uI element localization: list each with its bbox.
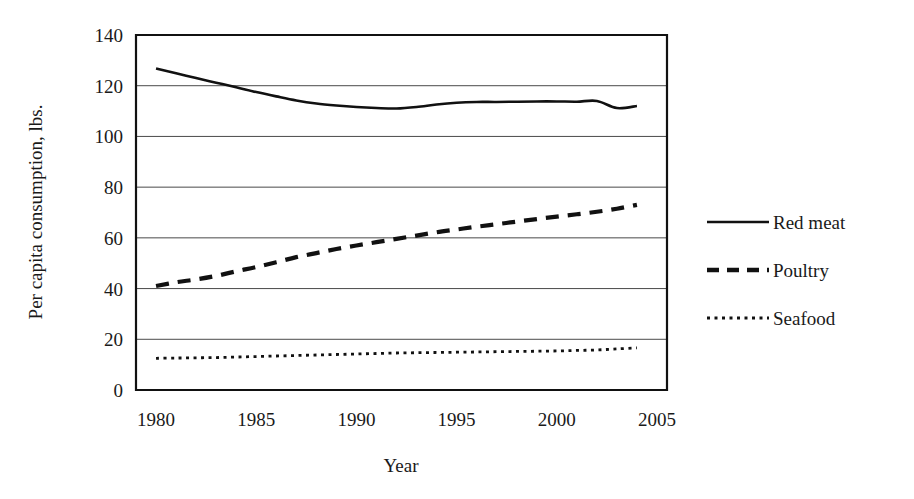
line-chart: 020406080100120140 198019851990199520002… xyxy=(0,0,914,499)
x-tick-label: 1990 xyxy=(337,409,375,430)
x-tick-label: 1995 xyxy=(438,409,476,430)
data-series xyxy=(156,68,637,358)
x-axis-title-text: Year xyxy=(383,455,419,476)
chart-legend: Red meatPoultrySeafood xyxy=(707,212,846,329)
y-tick-label: 100 xyxy=(95,126,124,147)
x-axis-tick-labels: 198019851990199520002005 xyxy=(137,409,676,430)
x-tick-label: 2000 xyxy=(538,409,576,430)
y-axis-title-text: Per capita consumption, lbs. xyxy=(25,105,46,320)
plot-frame xyxy=(136,35,667,390)
y-axis-tick-labels: 020406080100120140 xyxy=(95,25,124,401)
y-tick-label: 140 xyxy=(95,25,124,46)
legend-label: Red meat xyxy=(773,212,846,233)
y-axis-title: Per capita consumption, lbs. xyxy=(25,105,46,320)
x-tick-label: 2005 xyxy=(638,409,676,430)
series-line-seafood xyxy=(156,348,637,358)
gridlines xyxy=(136,86,667,340)
x-tick-label: 1980 xyxy=(137,409,175,430)
legend-item-red-meat: Red meat xyxy=(707,212,846,233)
x-tick-label: 1985 xyxy=(237,409,275,430)
legend-label: Seafood xyxy=(773,308,836,329)
legend-label: Poultry xyxy=(773,260,829,281)
y-tick-label: 60 xyxy=(104,228,123,249)
legend-item-poultry: Poultry xyxy=(707,260,829,281)
y-tick-label: 20 xyxy=(104,329,123,350)
y-tick-label: 0 xyxy=(114,380,124,401)
y-tick-label: 80 xyxy=(104,177,123,198)
chart-figure: 020406080100120140 198019851990199520002… xyxy=(0,0,914,499)
series-line-red-meat xyxy=(156,68,637,108)
legend-item-seafood: Seafood xyxy=(707,308,836,329)
y-tick-label: 120 xyxy=(95,76,124,97)
series-line-poultry xyxy=(156,205,637,286)
x-axis-title: Year xyxy=(383,455,419,476)
y-tick-label: 40 xyxy=(104,279,123,300)
